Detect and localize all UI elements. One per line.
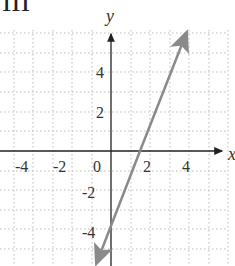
x-tick-4: 4 [182,158,190,175]
y-axis-label: y [104,6,114,26]
y-tick-4: 4 [96,64,104,81]
x-tick-2: 2 [143,158,151,175]
x-tick-neg2: -2 [53,158,66,175]
coordinate-plane: y x -4 -2 0 2 4 4 2 -2 -4 [0,0,235,266]
grid [0,30,228,266]
x-tick-0: 0 [93,158,101,175]
x-axis-label: x [227,144,235,164]
plotted-line [140,34,186,151]
plotted-line-lower [97,151,140,262]
y-tick-neg4: -4 [82,224,95,241]
x-tick-neg4: -4 [15,158,28,175]
y-tick-2: 2 [96,104,104,121]
y-tick-neg2: -2 [82,184,95,201]
